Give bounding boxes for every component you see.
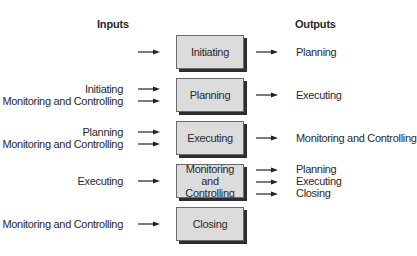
process-box-closing: Closing: [176, 207, 244, 241]
input-label: Monitoring and Controlling: [2, 95, 123, 107]
arrow-icon: [256, 191, 278, 197]
arrow-icon: [138, 129, 160, 135]
inputs-header: Inputs: [97, 18, 129, 30]
input-label: Executing: [77, 175, 123, 187]
output-label: Closing: [296, 187, 331, 199]
process-label: Executing: [187, 132, 233, 144]
output-label: Planning: [296, 46, 336, 58]
arrow-icon: [138, 221, 160, 227]
arrow-icon: [256, 135, 278, 141]
input-label: Monitoring and Controlling: [2, 138, 123, 150]
output-label: Executing: [296, 89, 342, 101]
process-label: Closing: [193, 218, 228, 230]
output-label: Planning: [296, 163, 336, 175]
arrow-icon: [138, 98, 160, 104]
process-box-monitoring-controlling: Monitoring and Controlling: [176, 164, 244, 198]
process-label: Initiating: [191, 46, 229, 58]
input-label: Initiating: [85, 83, 123, 95]
process-label: Monitoring and Controlling: [177, 163, 243, 199]
outputs-header: Outputs: [295, 18, 336, 30]
arrow-icon: [256, 179, 278, 185]
arrow-icon: [138, 49, 160, 55]
process-box-executing: Executing: [176, 121, 244, 155]
arrow-icon: [256, 92, 278, 98]
output-label: Executing: [296, 175, 342, 187]
arrow-icon: [256, 167, 278, 173]
arrow-icon: [256, 49, 278, 55]
input-label: Planning: [83, 126, 123, 138]
arrow-icon: [138, 141, 160, 147]
input-label: Monitoring and Controlling: [2, 218, 123, 230]
output-label: Monitoring and Controlling: [296, 132, 417, 144]
arrow-icon: [138, 178, 160, 184]
process-label: Planning: [190, 89, 230, 101]
arrow-icon: [138, 86, 160, 92]
process-box-initiating: Initiating: [176, 35, 244, 69]
process-box-planning: Planning: [176, 78, 244, 112]
